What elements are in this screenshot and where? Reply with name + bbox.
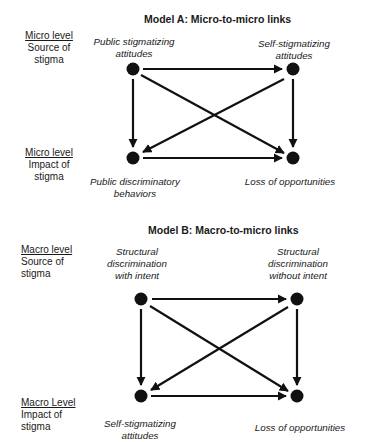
- model-b-edges: [141, 299, 297, 396]
- node-a-public-stigmatizing-attitudes: [127, 63, 140, 76]
- node-b-loss-of-opportunities: [291, 390, 304, 403]
- node-a-self-stigmatizing-attitudes: [287, 63, 300, 76]
- model-a-edges: [133, 69, 293, 158]
- node-b-self-stigmatizing-attitudes: [135, 390, 148, 403]
- node-b-structural-discrimination-with-intent: [135, 293, 148, 306]
- node-b-structural-discrimination-without-intent: [291, 293, 304, 306]
- node-a-public-discriminatory-behaviors: [127, 152, 140, 165]
- node-a-loss-of-opportunities: [287, 152, 300, 165]
